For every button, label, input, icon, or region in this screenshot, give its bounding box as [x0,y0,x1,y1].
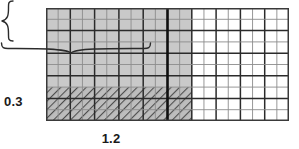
width-brace-icon [0,42,152,55]
height-brace-icon [0,0,14,42]
area-model-grid [46,8,289,121]
figure-canvas: 0.3 1.2 [0,0,299,149]
width-dimension-label: 1.2 [102,132,121,145]
grid-svg [46,8,289,121]
height-brace [0,0,14,42]
width-brace [0,42,152,55]
height-dimension-label: 0.3 [4,95,23,108]
